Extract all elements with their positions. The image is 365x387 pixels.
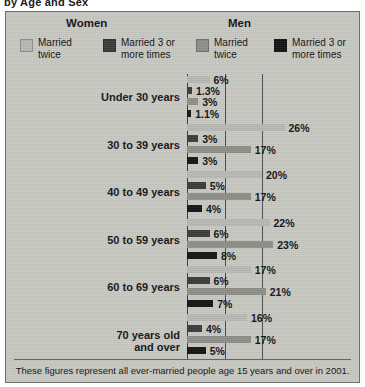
bar-value-label: 4%	[206, 204, 221, 214]
bar	[187, 241, 273, 248]
bar	[187, 87, 192, 94]
bar	[187, 135, 198, 142]
header-men: Men	[228, 17, 251, 29]
chart-panel: Women Men Married twiceMarried 3 or more…	[5, 11, 360, 383]
header-women: Women	[66, 17, 107, 29]
legend-swatch-men-married-3-or-more	[274, 39, 287, 52]
bar-value-label: 6%	[214, 229, 229, 239]
bar-group: 30 to 39 years26%3%17%3%	[15, 124, 352, 172]
legend-label: Married 3 or more times	[292, 37, 346, 60]
legend-label: Married twice	[38, 37, 72, 60]
plot-area: Under 30 years6%1.3%3%1.1%30 to 39 years…	[15, 74, 352, 359]
legend-swatch-women-married-twice	[20, 39, 33, 52]
bar	[187, 98, 198, 105]
bar-value-label: 1.1%	[195, 109, 219, 119]
bar	[187, 171, 262, 178]
bar-value-label: 17%	[255, 335, 276, 345]
bar-value-label: 16%	[251, 313, 272, 323]
bar-group: 70 years old and over16%4%17%5%	[15, 314, 352, 362]
bar	[187, 325, 202, 332]
category-label: 60 to 69 years	[15, 281, 180, 293]
bar	[187, 252, 217, 259]
bar	[187, 193, 251, 200]
bar-value-label: 23%	[277, 240, 298, 250]
legend-swatch-women-married-3-or-more	[103, 39, 116, 52]
bar	[187, 76, 210, 83]
bar-value-label: 7%	[217, 299, 232, 309]
bar-value-label: 3%	[202, 134, 217, 144]
bar	[187, 219, 270, 226]
bar	[187, 336, 251, 343]
footnote: These figures represent all ever-married…	[14, 359, 351, 376]
bar	[187, 146, 251, 153]
legend-label: Married 3 or more times	[121, 37, 175, 60]
category-label: Under 30 years	[15, 91, 180, 103]
bar-value-label: 5%	[210, 181, 225, 191]
bar-value-label: 6%	[214, 75, 229, 85]
bar	[187, 230, 210, 237]
category-label: 50 to 59 years	[15, 234, 180, 246]
bar	[187, 288, 266, 295]
cropped-chart-title: by Age and Sex	[4, 0, 88, 8]
legend-item-men-married-3-or-more: Married 3 or more times	[274, 37, 346, 60]
bar-value-label: 21%	[270, 287, 291, 297]
legend-label: Married twice	[214, 37, 248, 60]
bar-value-label: 22%	[274, 218, 295, 228]
bar	[187, 124, 285, 131]
bar-value-label: 6%	[214, 276, 229, 286]
bar-value-label: 3%	[202, 97, 217, 107]
bar-value-label: 17%	[255, 145, 276, 155]
bar-group: 50 to 59 years22%6%23%8%	[15, 219, 352, 267]
sex-headers: Women Men	[6, 17, 359, 33]
bar-value-label: 8%	[221, 251, 236, 261]
bar-value-label: 20%	[266, 170, 287, 180]
legend-swatch-men-married-twice	[196, 39, 209, 52]
bar	[187, 157, 198, 164]
bar	[187, 347, 206, 354]
bar	[187, 205, 202, 212]
bar-group: 40 to 49 years20%5%17%4%	[15, 171, 352, 219]
category-label: 70 years old and over	[15, 329, 180, 353]
bar	[187, 182, 206, 189]
legend-item-women-married-3-or-more: Married 3 or more times	[103, 37, 175, 60]
bar	[187, 314, 247, 321]
bar-value-label: 17%	[255, 192, 276, 202]
bar	[187, 277, 210, 284]
legend-item-women-married-twice: Married twice	[20, 37, 72, 60]
bar-value-label: 26%	[289, 123, 310, 133]
bar	[187, 110, 191, 117]
legend-item-men-married-twice: Married twice	[196, 37, 248, 60]
bar-value-label: 5%	[210, 346, 225, 356]
category-label: 30 to 39 years	[15, 139, 180, 151]
bar-value-label: 4%	[206, 324, 221, 334]
category-label: 40 to 49 years	[15, 186, 180, 198]
bar-group: Under 30 years6%1.3%3%1.1%	[15, 76, 352, 124]
bar-value-label: 1.3%	[196, 86, 220, 96]
bar-value-label: 3%	[202, 156, 217, 166]
bar-value-label: 17%	[255, 265, 276, 275]
bar	[187, 300, 213, 307]
bar-group: 60 to 69 years17%6%21%7%	[15, 266, 352, 314]
chart-legend: Married twiceMarried 3 or more timesMarr…	[6, 37, 359, 67]
bar	[187, 266, 251, 273]
